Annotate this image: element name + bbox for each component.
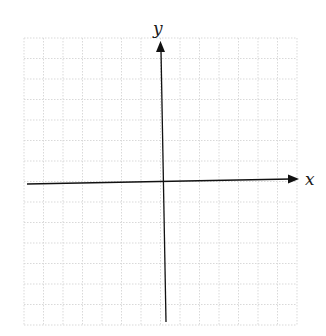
x-axis-label: x: [305, 169, 315, 189]
y-axis-arrow-icon: [156, 41, 165, 52]
y-axis-label: y: [152, 18, 163, 38]
y-axis: [161, 50, 166, 322]
coordinate-plane: y x: [0, 0, 326, 336]
